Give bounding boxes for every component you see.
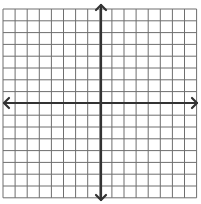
coordinate-plane bbox=[0, 0, 201, 204]
axes bbox=[4, 5, 197, 200]
